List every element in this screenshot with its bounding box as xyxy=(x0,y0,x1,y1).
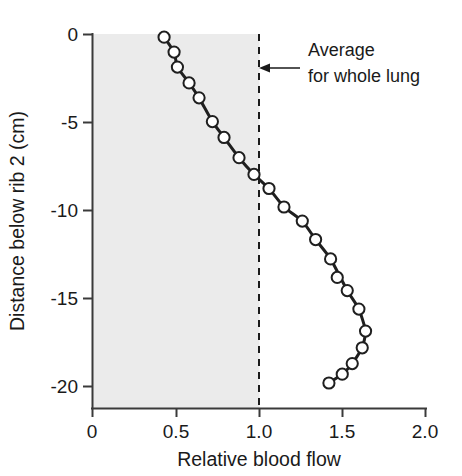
outlier-data-point xyxy=(332,272,343,283)
y-tick-label-minus20: -20 xyxy=(51,376,78,397)
y-tick-label-minus10: -10 xyxy=(51,200,78,221)
data-point xyxy=(353,303,364,314)
x-axis-title: Relative blood flow xyxy=(177,448,342,470)
y-axis-title: Distance below rib 2 (cm) xyxy=(6,111,28,331)
data-point xyxy=(218,132,229,143)
y-axis-ticks xyxy=(83,35,92,387)
data-point xyxy=(357,342,368,353)
outlier-point-markers xyxy=(332,272,343,283)
x-tick-label-2_0: 2.0 xyxy=(412,421,438,442)
data-point xyxy=(158,32,169,43)
data-point xyxy=(168,47,179,58)
data-point xyxy=(337,369,348,380)
data-point xyxy=(172,61,183,72)
data-point xyxy=(310,234,321,245)
data-point xyxy=(325,253,336,264)
x-tick-label-0: 0 xyxy=(87,421,98,442)
data-point xyxy=(207,116,218,127)
y-tick-label-0: 0 xyxy=(67,24,78,45)
data-point xyxy=(278,201,289,212)
data-point xyxy=(248,169,259,180)
average-annotation-arrow xyxy=(259,64,300,73)
data-point xyxy=(297,215,308,226)
average-annotation-line1: Average xyxy=(308,40,375,60)
data-point xyxy=(342,285,353,296)
data-point xyxy=(193,92,204,103)
data-point xyxy=(263,183,274,194)
x-tick-label-0_5: 0.5 xyxy=(163,421,189,442)
chart-svg: 0 -5 -10 -15 -20 0 0.5 1.0 1.5 2.0 Relat… xyxy=(0,0,462,476)
average-annotation-line2: for whole lung xyxy=(308,66,420,86)
data-point xyxy=(323,377,334,388)
x-tick-label-1_5: 1.5 xyxy=(329,421,355,442)
left-shaded-region xyxy=(93,34,260,408)
blood-flow-chart-figure: 0 -5 -10 -15 -20 0 0.5 1.0 1.5 2.0 Relat… xyxy=(0,0,462,476)
data-point xyxy=(360,325,371,336)
data-point xyxy=(183,77,194,88)
x-tick-label-1_0: 1.0 xyxy=(246,421,272,442)
data-point xyxy=(347,358,358,369)
y-tick-label-minus15: -15 xyxy=(51,288,78,309)
y-tick-label-minus5: -5 xyxy=(61,112,78,133)
data-point xyxy=(233,152,244,163)
